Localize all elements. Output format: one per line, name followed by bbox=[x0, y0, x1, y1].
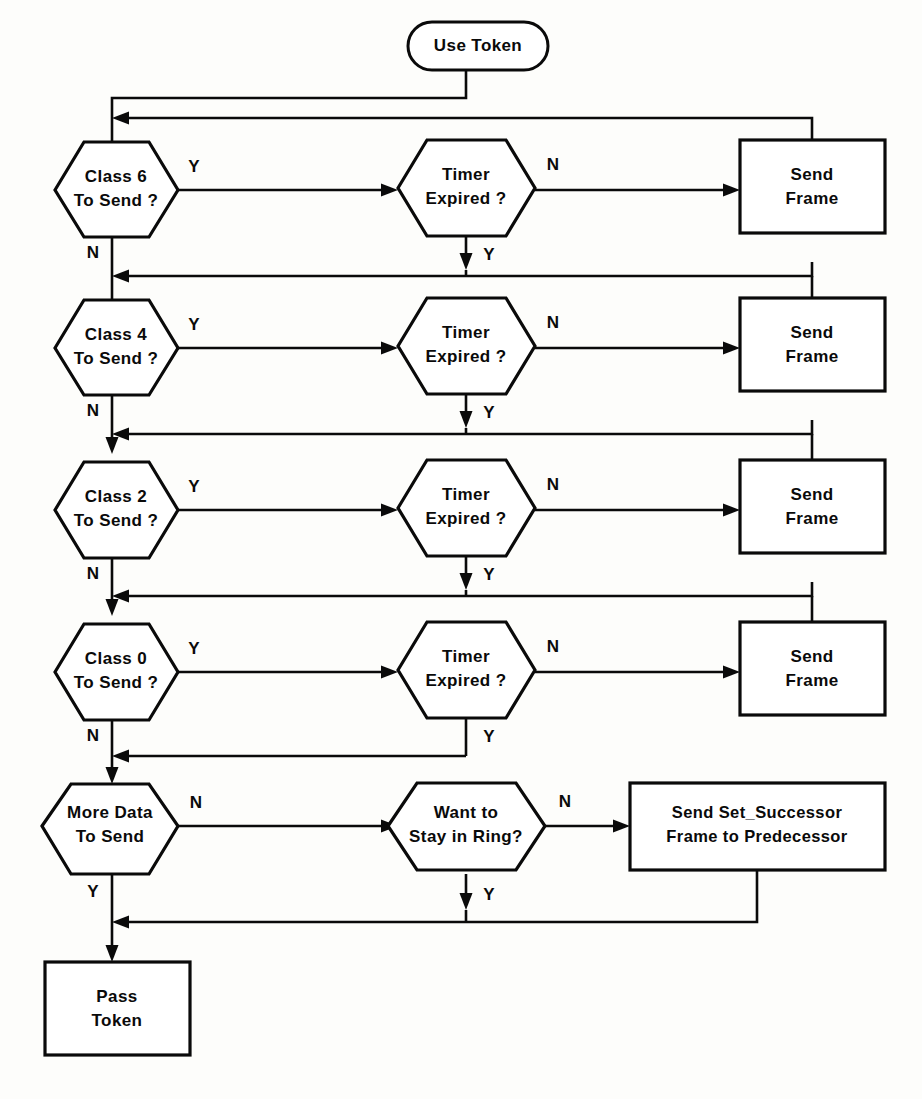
flowchart-canvas: Use Token Class 6 To Send ? Y N Timer Ex… bbox=[0, 0, 922, 1099]
send1-label-line1: Send bbox=[790, 165, 833, 184]
edge-setsucc-return bbox=[124, 870, 757, 922]
label-class4-yes: Y bbox=[188, 315, 200, 334]
class6-label-line2: To Send ? bbox=[74, 191, 159, 210]
arrowhead-row2-return bbox=[112, 270, 129, 283]
node-send4[interactable]: Send Frame bbox=[740, 622, 885, 715]
node-class0[interactable]: Class 0 To Send ? bbox=[55, 624, 178, 720]
class4-label-line1: Class 4 bbox=[85, 325, 147, 344]
timer1-label-line1: Timer bbox=[442, 165, 490, 184]
label-class2-yes: Y bbox=[188, 477, 200, 496]
timer2-label-line1: Timer bbox=[442, 323, 490, 342]
passtoken-label-line1: Pass bbox=[96, 987, 137, 1006]
timer4-label-line1: Timer bbox=[442, 647, 490, 666]
passtoken-label-line2: Token bbox=[92, 1011, 143, 1030]
arrowhead-timer1-yes bbox=[460, 253, 473, 270]
label-timer3-no: N bbox=[547, 475, 559, 494]
label-timer1-yes: Y bbox=[483, 245, 495, 264]
label-class0-yes: Y bbox=[188, 639, 200, 658]
send2-rect bbox=[740, 298, 885, 391]
edge-start-to-class6 bbox=[112, 70, 466, 142]
label-stayring-yes: Y bbox=[483, 885, 495, 904]
timer1-hexagon bbox=[398, 140, 535, 236]
class0-label-line1: Class 0 bbox=[85, 649, 147, 668]
timer1-label-line2: Expired ? bbox=[425, 189, 506, 208]
moredata-label-line1: More Data bbox=[67, 803, 153, 822]
node-timer1[interactable]: Timer Expired ? bbox=[398, 140, 535, 236]
setsucc-label-line2: Frame to Predecessor bbox=[666, 827, 848, 845]
class6-hexagon bbox=[55, 142, 178, 237]
moredata-label-line2: To Send bbox=[76, 827, 145, 846]
timer3-label-line2: Expired ? bbox=[425, 509, 506, 528]
arrowhead-class4-yes bbox=[381, 342, 398, 355]
node-send2[interactable]: Send Frame bbox=[740, 298, 885, 391]
node-timer2[interactable]: Timer Expired ? bbox=[398, 298, 535, 394]
arrowhead-timer2-yes bbox=[460, 411, 473, 428]
node-passtoken[interactable]: Pass Token bbox=[45, 962, 190, 1055]
node-setsucc[interactable]: Send Set_Successor Frame to Predecessor bbox=[630, 783, 885, 870]
timer3-hexagon bbox=[398, 460, 535, 556]
node-stayring[interactable]: Want to Stay in Ring? bbox=[388, 783, 545, 870]
node-send3[interactable]: Send Frame bbox=[740, 460, 885, 553]
label-moredata-no: N bbox=[190, 793, 202, 812]
passtoken-rect bbox=[45, 962, 190, 1055]
node-class6[interactable]: Class 6 To Send ? bbox=[55, 142, 178, 237]
label-timer2-no: N bbox=[547, 313, 559, 332]
class4-label-line2: To Send ? bbox=[74, 349, 159, 368]
send4-rect bbox=[740, 622, 885, 715]
timer2-label-line2: Expired ? bbox=[425, 347, 506, 366]
label-class0-no: N bbox=[87, 726, 99, 745]
arrowhead-timer4-no bbox=[723, 666, 740, 679]
send2-label-line1: Send bbox=[790, 323, 833, 342]
class4-hexagon bbox=[55, 300, 178, 395]
timer3-label-line1: Timer bbox=[442, 485, 490, 504]
stayring-label-line2: Stay in Ring? bbox=[409, 827, 523, 846]
class2-label-line2: To Send ? bbox=[74, 511, 159, 530]
arrowhead-send1-return bbox=[112, 112, 129, 125]
arrowhead-class4-no bbox=[106, 437, 119, 454]
class0-hexagon bbox=[55, 624, 178, 720]
edge-send1-return bbox=[124, 118, 812, 140]
label-moredata-yes: Y bbox=[87, 882, 99, 901]
timer4-label-line2: Expired ? bbox=[425, 671, 506, 690]
node-class4[interactable]: Class 4 To Send ? bbox=[55, 300, 178, 395]
label-timer4-no: N bbox=[547, 637, 559, 656]
send4-label-line2: Frame bbox=[785, 671, 838, 690]
class2-hexagon bbox=[55, 462, 178, 558]
flowchart-svg: Use Token Class 6 To Send ? Y N Timer Ex… bbox=[0, 0, 922, 1099]
node-class2[interactable]: Class 2 To Send ? bbox=[55, 462, 178, 558]
send4-label-line1: Send bbox=[790, 647, 833, 666]
label-stayring-no: N bbox=[559, 792, 571, 811]
arrowhead-timer3-yes bbox=[460, 573, 473, 590]
arrowhead-class0-no bbox=[106, 767, 119, 784]
arrowhead-class6-yes bbox=[381, 184, 398, 197]
arrowhead-class2-no bbox=[106, 599, 119, 616]
arrowhead-stayring-yes bbox=[460, 893, 473, 910]
class2-label-line1: Class 2 bbox=[85, 487, 147, 506]
node-timer3[interactable]: Timer Expired ? bbox=[398, 460, 535, 556]
class0-label-line2: To Send ? bbox=[74, 673, 159, 692]
arrowhead-row5-return bbox=[112, 750, 129, 763]
arrowhead-class2-yes bbox=[381, 504, 398, 517]
arrowhead-class0-yes bbox=[381, 666, 398, 679]
label-class6-yes: Y bbox=[188, 157, 200, 176]
send3-label-line1: Send bbox=[790, 485, 833, 504]
label-class6-no: N bbox=[87, 243, 99, 262]
arrowhead-stayring-no bbox=[613, 820, 630, 833]
node-moredata[interactable]: More Data To Send bbox=[42, 784, 178, 874]
stayring-label-line1: Want to bbox=[434, 803, 498, 822]
node-send1[interactable]: Send Frame bbox=[740, 140, 885, 233]
arrowhead-setsucc-return bbox=[112, 916, 129, 929]
arrowhead-timer1-no bbox=[723, 184, 740, 197]
arrowhead-timer2-no bbox=[723, 342, 740, 355]
label-timer3-yes: Y bbox=[483, 565, 495, 584]
label-timer2-yes: Y bbox=[483, 403, 495, 422]
label-class4-no: N bbox=[87, 401, 99, 420]
send3-rect bbox=[740, 460, 885, 553]
setsucc-label-line1: Send Set_Successor bbox=[672, 803, 843, 821]
timer2-hexagon bbox=[398, 298, 535, 394]
node-start[interactable]: Use Token bbox=[408, 22, 548, 70]
send1-rect bbox=[740, 140, 885, 233]
label-timer4-yes: Y bbox=[483, 727, 495, 746]
arrowhead-moredata-yes bbox=[106, 945, 119, 962]
node-timer4[interactable]: Timer Expired ? bbox=[398, 622, 535, 718]
